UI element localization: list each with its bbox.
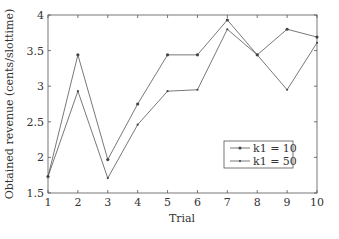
data-point <box>286 89 288 91</box>
x-tick-label: 1 <box>45 196 52 209</box>
x-tick-label: 4 <box>134 196 141 209</box>
x-tick-label: 9 <box>284 196 291 209</box>
legend-marker-k1-10 <box>238 146 241 149</box>
legend-label-k1-10: k1 = 10 <box>253 142 297 155</box>
data-point <box>315 35 318 38</box>
data-point <box>226 18 229 21</box>
x-tick-label: 6 <box>194 196 201 209</box>
x-tick-label: 10 <box>310 196 324 209</box>
line-chart: 123456789101.522.533.54 Trial Obtained r… <box>0 0 339 239</box>
data-point <box>166 53 169 56</box>
y-tick-label: 4 <box>37 9 44 22</box>
legend: k1 = 10 k1 = 50 <box>224 141 297 168</box>
data-point <box>226 28 228 30</box>
data-point <box>137 124 139 126</box>
y-tick-label: 3.5 <box>27 45 45 58</box>
data-point <box>196 89 198 91</box>
data-point <box>76 53 79 56</box>
y-tick-label: 3 <box>37 80 44 93</box>
y-tick-label: 1.5 <box>27 187 45 200</box>
x-tick-label: 3 <box>104 196 111 209</box>
x-tick-label: 5 <box>164 196 171 209</box>
data-point <box>77 90 79 92</box>
y-tick-label: 2.5 <box>27 116 45 129</box>
legend-marker-k1-50 <box>239 160 241 162</box>
data-point <box>316 42 318 44</box>
x-tick-label: 7 <box>224 196 231 209</box>
legend-label-k1-50: k1 = 50 <box>253 155 297 168</box>
x-axis-label: Trial <box>169 212 196 225</box>
y-axis-label: Obtained revenue (cents/slottime) <box>3 9 16 200</box>
data-point <box>166 90 168 92</box>
axis-ticks: 123456789101.522.533.54 <box>27 9 325 209</box>
data-point <box>196 53 199 56</box>
data-point <box>106 158 109 161</box>
x-tick-label: 2 <box>74 196 81 209</box>
data-point <box>256 54 258 56</box>
data-point <box>286 28 289 31</box>
data-point <box>47 176 49 178</box>
x-tick-label: 8 <box>254 196 261 209</box>
data-point <box>107 177 109 179</box>
y-tick-label: 2 <box>37 151 44 164</box>
data-point <box>136 102 139 105</box>
